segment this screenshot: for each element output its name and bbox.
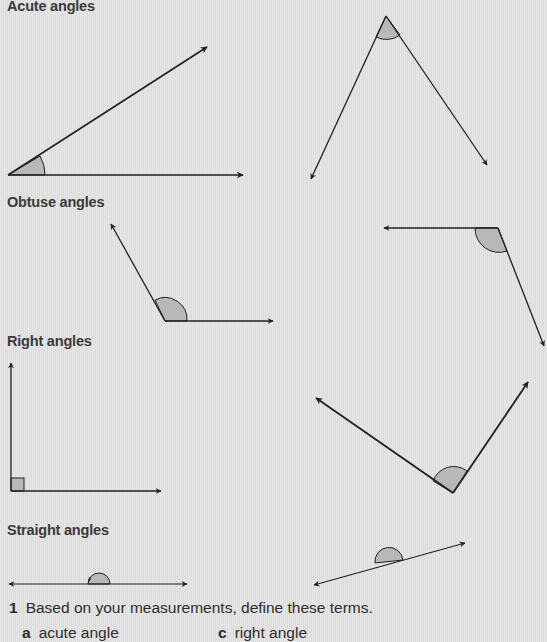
acute-angle-1 [8, 47, 243, 175]
part-letter: a [22, 624, 31, 641]
part-letter: c [218, 624, 227, 641]
question-part-c: cright angle [218, 624, 307, 642]
part-text: right angle [235, 624, 307, 641]
question-text: Based on your measurements, define these… [26, 599, 373, 616]
straight-angle-1 [9, 573, 187, 584]
obtuse-angle-2 [384, 228, 544, 346]
acute-angle-2 [311, 16, 487, 179]
question-part-a: aacute angle [22, 624, 119, 642]
part-text: acute angle [39, 624, 119, 641]
obtuse-angle-3 [316, 382, 528, 493]
question-number: 1 [9, 599, 18, 616]
right-angle [11, 363, 161, 491]
obtuse-angle-1 [111, 224, 273, 321]
question-1: 1Based on your measurements, define thes… [9, 599, 373, 617]
straight-angle-2 [314, 543, 465, 585]
